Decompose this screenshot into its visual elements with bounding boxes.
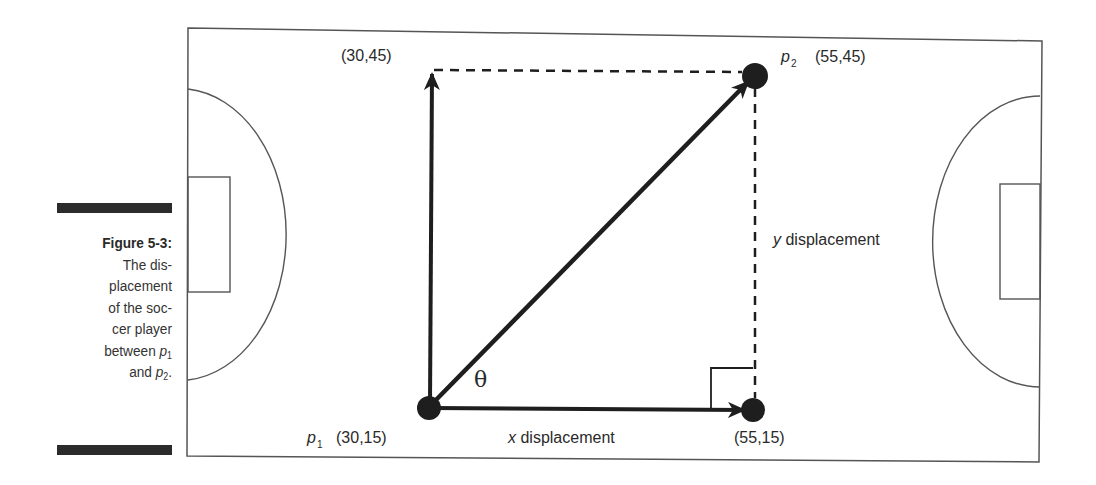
soccer-field-diagram: θ (30,45) p 2 (55,45) p 1 (30,15) (55,15…: [0, 0, 1096, 485]
angle-theta-label: θ: [474, 367, 487, 392]
right-penalty-arc: [933, 96, 1040, 387]
bottom-right-coords: (55,15): [734, 429, 785, 446]
left-goal-box: [188, 177, 230, 292]
top-left-coords: (30,45): [341, 47, 392, 64]
y-component-vector: [430, 74, 432, 404]
y-displacement-text: displacement: [781, 231, 880, 248]
p1-coords: (30,15): [336, 429, 387, 446]
p2-subscript: 2: [791, 58, 797, 69]
x-displacement-text: displacement: [516, 429, 615, 446]
left-penalty-arc: [188, 89, 286, 380]
field-border: [187, 28, 1042, 462]
point-bottom-right: [741, 398, 765, 422]
x-component-vector: [432, 408, 744, 410]
right-goal-box: [1000, 184, 1040, 299]
x-displacement-label: x displacement: [507, 429, 615, 446]
p2-label: p: [780, 48, 790, 65]
dashed-top-line: [434, 70, 742, 72]
p1-label: p: [306, 429, 316, 446]
p2-coords: (55,45): [815, 48, 866, 65]
p1-subscript: 1: [317, 439, 323, 450]
point-p1: [417, 396, 441, 420]
y-displacement-label: y displacement: [772, 231, 880, 248]
displacement-vector: [432, 82, 748, 404]
point-p2: [742, 63, 768, 89]
